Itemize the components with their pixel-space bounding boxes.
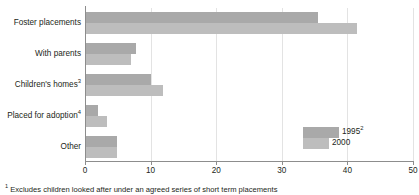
legend-label-1995: 19952: [342, 127, 363, 137]
bar-1995: [85, 43, 136, 54]
bar-2000: [85, 116, 107, 127]
bar-group: [85, 43, 413, 65]
gridline-50: [413, 8, 414, 162]
x-tick-label-0: 0: [75, 166, 95, 176]
bar-1995: [85, 74, 151, 85]
chart-legend: 19952 2000: [303, 127, 413, 153]
bar-group: [85, 74, 413, 96]
bar-2000: [85, 23, 357, 34]
category-label-placed-for-adoption: Placed for adoption4: [0, 111, 81, 121]
category-label-with-parents: With parents: [0, 49, 81, 59]
x-axis-line: [85, 161, 414, 162]
x-tick-label-20: 20: [206, 166, 226, 176]
legend-swatch-2000: [303, 138, 329, 149]
category-labels: Foster placementsWith parentsChildren's …: [0, 8, 81, 162]
bar-1995: [85, 136, 117, 147]
category-label-foster-placements: Foster placements: [0, 18, 81, 28]
x-tick-10: [151, 162, 152, 165]
legend-swatch-1995: [303, 127, 339, 138]
bar-group: [85, 105, 413, 127]
x-tick-label-40: 40: [337, 166, 357, 176]
bar-group: [85, 12, 413, 34]
bar-2000: [85, 54, 131, 65]
x-tick-50: [413, 162, 414, 165]
bar-chart: Foster placementsWith parentsChildren's …: [0, 0, 419, 195]
legend-label-2000: 2000: [332, 138, 350, 148]
x-tick-0: [85, 162, 86, 165]
category-label-children-s-homes: Children's homes3: [0, 80, 81, 90]
x-tick-20: [216, 162, 217, 165]
category-label-other: Other: [0, 142, 81, 152]
chart-footnote: 1 Excludes children looked after under a…: [5, 185, 277, 194]
x-tick-30: [282, 162, 283, 165]
x-tick-label-10: 10: [141, 166, 161, 176]
x-tick-label-50: 50: [403, 166, 419, 176]
y-axis-line: [85, 6, 86, 162]
bar-2000: [85, 85, 163, 96]
bar-2000: [85, 147, 117, 158]
x-tick-40: [347, 162, 348, 165]
bar-1995: [85, 105, 98, 116]
bar-1995: [85, 12, 318, 23]
x-tick-label-30: 30: [272, 166, 292, 176]
